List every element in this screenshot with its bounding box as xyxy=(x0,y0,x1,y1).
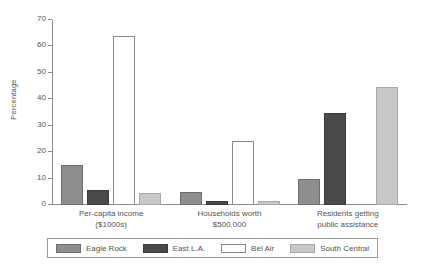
legend-label: South Central xyxy=(320,244,369,253)
y-tick-mark xyxy=(48,204,52,205)
bar-group xyxy=(61,20,161,205)
legend-swatch-bel xyxy=(221,244,246,253)
legend-label: East L.A. xyxy=(173,244,205,253)
y-tick-mark xyxy=(48,125,52,126)
legend-item-bel[interactable]: Bel Air xyxy=(221,244,274,253)
y-tick: 70 xyxy=(52,19,53,20)
legend-swatch-east xyxy=(143,244,168,253)
bar-south xyxy=(376,87,398,205)
bar-eagle xyxy=(180,192,202,205)
bar-bel xyxy=(113,36,135,205)
legend-item-eagle[interactable]: Eagle Rock xyxy=(56,244,127,253)
y-tick-label: 0 xyxy=(42,199,46,208)
legend-item-south[interactable]: South Central xyxy=(290,244,369,253)
category-label-line: public assistance xyxy=(288,219,408,230)
category-label: Residents gettingpublic assistance xyxy=(288,208,408,230)
legend-item-east[interactable]: East L.A. xyxy=(143,244,205,253)
category-label-line: ($1000s) xyxy=(51,219,171,230)
legend-label: Bel Air xyxy=(251,244,274,253)
y-tick: 40 xyxy=(52,98,53,99)
y-tick: 60 xyxy=(52,45,53,46)
legend-swatch-eagle xyxy=(56,244,81,253)
legend-label: Eagle Rock xyxy=(86,244,127,253)
category-label-line: Residents getting xyxy=(317,209,379,218)
y-tick-label: 10 xyxy=(37,173,46,182)
category-label-line: Households worth xyxy=(197,209,261,218)
y-axis-title: Percentage xyxy=(9,70,18,130)
y-tick: 20 xyxy=(52,151,53,152)
y-tick: 50 xyxy=(52,72,53,73)
chart-legend: Eagle RockEast L.A.Bel AirSouth Central xyxy=(47,238,378,258)
bar-eagle xyxy=(61,165,83,205)
bar-east xyxy=(324,113,346,205)
category-label-line: $500,000 xyxy=(170,219,290,230)
category-label: Per-capita income($1000s) xyxy=(51,208,171,230)
bar-south xyxy=(139,193,161,205)
y-tick-label: 60 xyxy=(37,40,46,49)
plot-area: 010203040506070 xyxy=(52,20,407,205)
y-tick-mark xyxy=(48,151,52,152)
y-tick: 0 xyxy=(52,204,53,205)
y-tick-mark xyxy=(48,98,52,99)
y-tick-label: 40 xyxy=(37,93,46,102)
y-tick-label: 30 xyxy=(37,120,46,129)
y-tick-mark xyxy=(48,45,52,46)
bar-group xyxy=(180,20,280,205)
category-label-line: Per-capita income xyxy=(79,209,143,218)
bar-south xyxy=(258,201,280,205)
bar-group xyxy=(298,20,398,205)
y-tick-label: 50 xyxy=(37,67,46,76)
bar-eagle xyxy=(298,179,320,205)
y-tick: 10 xyxy=(52,178,53,179)
bar-east xyxy=(87,190,109,205)
y-tick-mark xyxy=(48,19,52,20)
bar-chart: Percentage 010203040506070 Per-capita in… xyxy=(0,0,423,269)
y-tick: 30 xyxy=(52,125,53,126)
y-tick-label: 20 xyxy=(37,146,46,155)
y-tick-label: 70 xyxy=(37,14,46,23)
bar-bel xyxy=(232,141,254,205)
bar-east xyxy=(206,201,228,205)
legend-swatch-south xyxy=(290,244,315,253)
category-label: Households worth$500,000 xyxy=(170,208,290,230)
y-tick-mark xyxy=(48,72,52,73)
y-tick-mark xyxy=(48,178,52,179)
